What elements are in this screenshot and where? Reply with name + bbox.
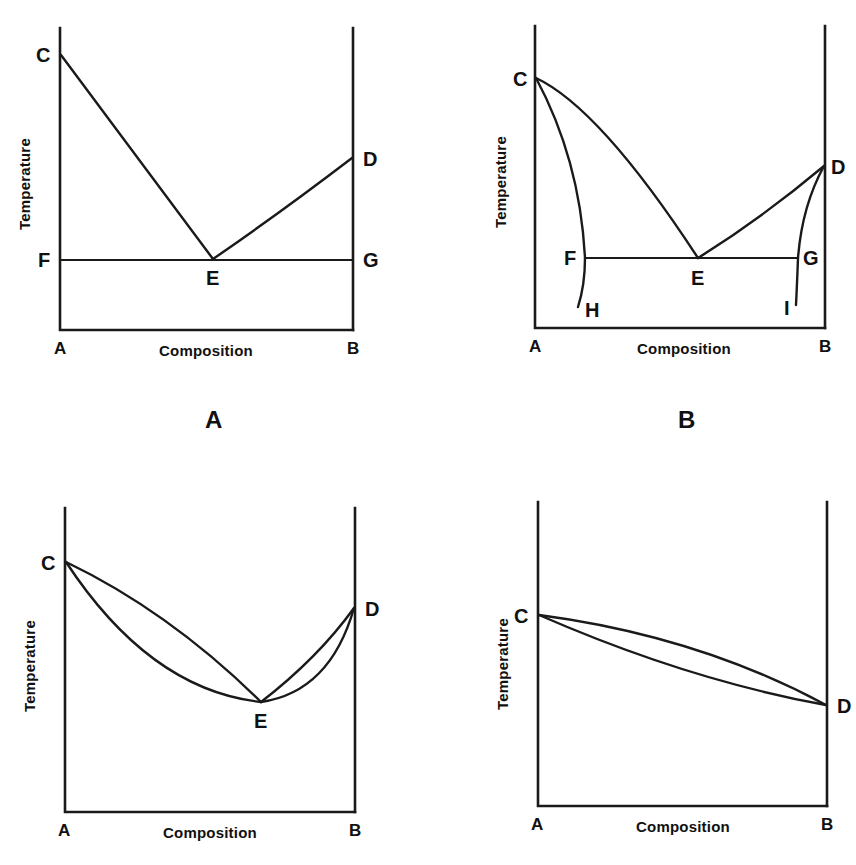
- panel-d-x-axis-title: Composition: [636, 818, 730, 835]
- panel-b-label-G: G: [803, 247, 819, 269]
- panel-a-liquidus-ce: [61, 55, 213, 259]
- panel-b-liquidus-ce: [536, 78, 698, 258]
- panel-a-y-axis-title: Temperature: [16, 138, 33, 230]
- panel-c-label-B-endpoint: B: [349, 821, 361, 840]
- panel-b-chart: C D E F G H I A B Composition Temperatur…: [428, 0, 856, 440]
- panel-d-solidus-cd: [539, 615, 826, 705]
- panel-a-label-B-endpoint: B: [347, 339, 359, 358]
- panel-a-label-C: C: [36, 44, 50, 66]
- panel-d-axes: [538, 502, 827, 806]
- panel-b-solidus-cf: [536, 78, 585, 258]
- panel-a-label-D: D: [363, 148, 377, 170]
- panel-b-solvus-fh: [578, 258, 585, 307]
- panel-b-label-A-endpoint: A: [529, 337, 541, 356]
- panel-c-solidus-ed: [261, 608, 354, 702]
- panel-c-axes: [65, 508, 355, 812]
- panel-b-axes: [535, 26, 825, 328]
- panel-c-label-E: E: [254, 710, 267, 732]
- panel-c-solid-solution-minimum: C D E A B Composition Temperature: [0, 440, 428, 865]
- panel-c-chart: C D E A B Composition Temperature: [0, 440, 428, 865]
- panel-a-caption: A: [205, 406, 222, 433]
- panel-b-label-I: I: [784, 297, 790, 319]
- panel-a-liquidus-ed: [213, 158, 352, 259]
- panel-c-y-axis-title: Temperature: [21, 620, 38, 712]
- panel-a-x-axis-title: Composition: [159, 342, 253, 359]
- panel-c-label-D: D: [365, 598, 379, 620]
- panel-b-y-axis-title: Temperature: [492, 136, 509, 228]
- panel-b-caption: B: [678, 406, 695, 433]
- panel-d-isomorphous-solid-solution: C D A B Composition Temperature: [428, 440, 856, 865]
- panel-b-solvus-gi: [796, 258, 798, 305]
- panel-c-label-C: C: [41, 552, 55, 574]
- panel-b-label-C: C: [513, 68, 527, 90]
- panel-a-label-A-endpoint: A: [54, 339, 66, 358]
- panel-c-solidus-ce: [66, 562, 261, 702]
- panel-b-x-axis-title: Composition: [637, 340, 731, 357]
- panel-d-liquidus-cd: [539, 615, 826, 705]
- panel-b-solidus-dg: [798, 166, 824, 258]
- panel-c-liquidus-ed: [261, 608, 354, 702]
- panel-d-y-axis-title: Temperature: [494, 618, 511, 710]
- phase-diagram-figure: C D E F G A B Composition Temperature A: [0, 0, 856, 865]
- panel-a-label-G: G: [363, 249, 379, 271]
- panel-c-liquidus-ce: [66, 562, 261, 702]
- panel-b-eutectic-with-solid-solutions: C D E F G H I A B Composition Temperatur…: [428, 0, 856, 440]
- panel-c-x-axis-title: Composition: [163, 824, 257, 841]
- panel-d-label-D: D: [837, 695, 851, 717]
- panel-d-label-B-endpoint: B: [821, 815, 833, 834]
- panel-d-chart: C D A B Composition Temperature: [428, 440, 856, 865]
- panel-a-label-F: F: [38, 249, 50, 271]
- panel-a-chart: C D E F G A B Composition Temperature A: [0, 0, 428, 440]
- panel-d-label-C: C: [514, 605, 528, 627]
- panel-b-label-E: E: [691, 267, 704, 289]
- panel-b-label-H: H: [585, 299, 599, 321]
- panel-c-label-A-endpoint: A: [58, 821, 70, 840]
- panel-a-simple-eutectic: C D E F G A B Composition Temperature A: [0, 0, 428, 440]
- panel-d-label-A-endpoint: A: [531, 815, 543, 834]
- panel-a-label-E: E: [206, 267, 219, 289]
- panel-b-label-D: D: [831, 156, 845, 178]
- panel-b-label-F: F: [564, 247, 576, 269]
- panel-b-label-B-endpoint: B: [819, 337, 831, 356]
